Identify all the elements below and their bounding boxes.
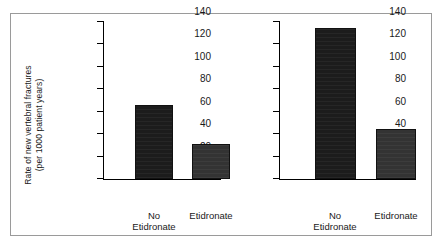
y-tick-left-80 xyxy=(97,88,103,89)
x-axis-line-right xyxy=(279,179,416,180)
y-tick-left-20 xyxy=(97,156,103,157)
x-label-right-etidronate: Etidronate xyxy=(374,210,417,221)
y-tick-label-right-60: 60 xyxy=(395,95,406,106)
y-tick-left-40 xyxy=(97,133,103,134)
y-tick-label-right-120: 120 xyxy=(389,28,406,39)
y-tick-right-60 xyxy=(273,111,279,112)
y-tick-label-left-40: 40 xyxy=(200,118,211,129)
bar-left-no-etidronate xyxy=(135,105,173,179)
y-tick-right-140 xyxy=(273,21,279,22)
y-tick-label-left-100: 100 xyxy=(194,50,211,61)
x-label-left-etidronate: Etidronate xyxy=(189,210,232,221)
bar-left-etidronate xyxy=(192,144,230,179)
y-tick-label-left-80: 80 xyxy=(200,73,211,84)
y-tick-right-100 xyxy=(273,66,279,67)
y-tick-label-right-40: 40 xyxy=(395,118,406,129)
y-tick-label-left-120: 120 xyxy=(194,28,211,39)
x-axis-line-left xyxy=(103,179,221,180)
y-tick-right-0 xyxy=(273,178,279,179)
y-tick-right-120 xyxy=(273,43,279,44)
y-axis-line-right xyxy=(279,21,280,179)
bar-right-etidronate xyxy=(376,129,416,180)
y-tick-left-140 xyxy=(97,21,103,22)
chart-panel-left: Rate of new vertebral fractures (per 100… xyxy=(19,14,229,235)
x-label-left-no-etidronate: No Etidronate xyxy=(132,210,175,232)
y-tick-right-20 xyxy=(273,156,279,157)
y-tick-left-0 xyxy=(97,178,103,179)
y-tick-left-60 xyxy=(97,111,103,112)
bar-right-no-etidronate xyxy=(315,28,356,179)
y-axis-line-left xyxy=(103,21,104,179)
y-tick-left-120 xyxy=(97,43,103,44)
y-tick-right-80 xyxy=(273,88,279,89)
plot-area-right: 0 20 40 60 80 100 120 140 xyxy=(279,22,416,179)
x-label-right-no-etidronate: No Etidronate xyxy=(313,210,356,232)
plot-area-left: 0 20 40 60 80 100 120 140 xyxy=(103,22,221,179)
y-axis-title-left: Rate of new vertebral fractures (per 100… xyxy=(23,45,44,205)
y-tick-label-right-100: 100 xyxy=(389,50,406,61)
figure-frame: Rate of new vertebral fractures (per 100… xyxy=(10,13,432,236)
y-tick-right-40 xyxy=(273,133,279,134)
y-tick-label-left-60: 60 xyxy=(200,95,211,106)
y-tick-label-right-140: 140 xyxy=(389,6,406,17)
chart-panel-right: 0 20 40 60 80 100 120 140 No Etidronate … xyxy=(229,14,433,235)
y-tick-label-right-80: 80 xyxy=(395,73,406,84)
y-tick-left-100 xyxy=(97,66,103,67)
y-tick-label-left-140: 140 xyxy=(194,6,211,17)
